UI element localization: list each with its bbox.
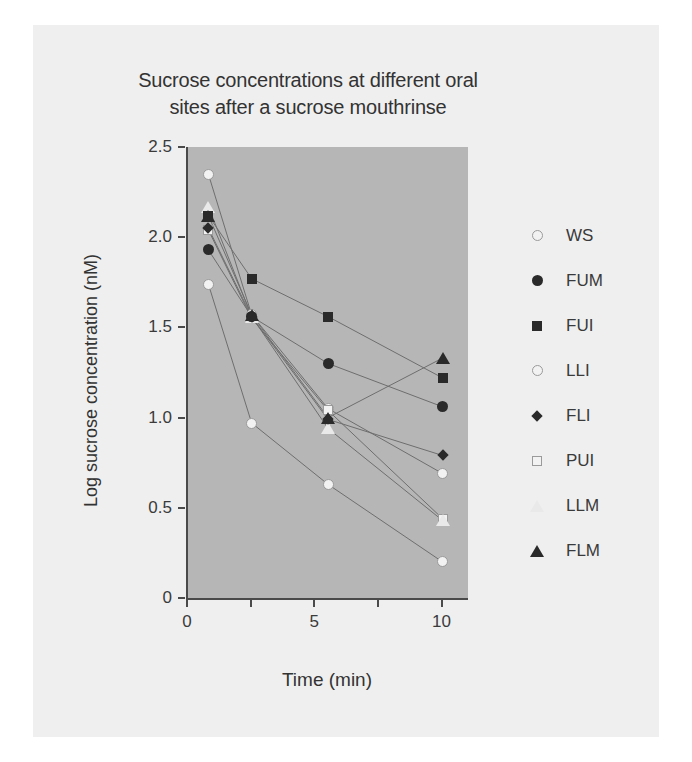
y-tick-label: 1.0 [132,408,172,428]
legend-marker-fui-icon [528,317,546,335]
data-point-lli-0 [203,279,214,290]
figure-panel: Sucrose concentrations at different oral… [33,25,659,737]
marker-circle-open [532,230,543,241]
data-point-fum-2 [323,358,334,369]
data-point-fui-3 [438,373,448,383]
series-line-fum [208,250,442,407]
y-tick-mark [178,236,185,238]
data-point-fui-1 [247,274,257,284]
data-point-lli-3 [437,556,448,567]
y-tick-mark [178,326,185,328]
data-point-lli-1 [246,418,257,429]
data-point-flm-2 [321,412,335,424]
data-point-ws-3 [437,468,448,479]
y-tick-mark [178,597,185,599]
legend-label-pui: PUI [566,451,594,471]
legend-marker-pui-icon [528,452,546,470]
y-axis-title: Log sucrose concentration (nM) [81,231,102,531]
legend-label-fli: FLI [566,406,591,426]
legend-marker-ws-icon [528,227,546,245]
data-point-flm-1 [245,309,259,321]
y-tick-mark [178,146,185,148]
legend-label-lli: LLI [566,361,590,381]
y-tick-label: 2.0 [132,227,172,247]
legend-item-pui[interactable]: PUI [528,438,648,483]
plot-wrapper: Log sucrose concentration (nM) Time (min… [33,25,659,737]
legend-item-llm[interactable]: LLM [528,483,648,528]
marker-diamond-filled [531,410,542,421]
data-point-fum-0 [203,244,214,255]
plot-area [186,147,468,600]
legend-item-fli[interactable]: FLI [528,393,648,438]
legend-item-ws[interactable]: WS [528,213,648,258]
legend-item-lli[interactable]: LLI [528,348,648,393]
series-line-fui [208,216,442,378]
legend-marker-lli-icon [528,362,546,380]
legend-marker-llm-icon [528,497,546,515]
legend-marker-fli-icon [528,407,546,425]
marker-circle-filled [532,275,543,286]
x-tick-label: 0 [167,612,207,632]
data-point-fui-2 [323,312,333,322]
x-axis-title: Time (min) [186,669,468,691]
marker-triangle-filled [530,545,544,557]
legend-item-fum[interactable]: FUM [528,258,648,303]
x-tick-mark [441,600,443,607]
series-line-pui [208,230,442,519]
legend-label-llm: LLM [566,496,599,516]
data-point-flm-3 [436,352,450,364]
x-tick-mark [377,600,379,607]
marker-circle-open [532,365,543,376]
y-tick-mark [178,507,185,509]
x-tick-mark [313,600,315,607]
y-tick-label: 1.5 [132,317,172,337]
data-point-ws-0 [203,169,214,180]
data-point-fli-3 [437,450,448,461]
x-tick-label: 10 [422,612,462,632]
y-tick-mark [178,417,185,419]
data-point-llm-3 [436,514,450,526]
x-tick-mark [186,600,188,607]
data-point-fum-3 [437,401,448,412]
y-tick-label: 0.5 [132,498,172,518]
chart-legend: WSFUMFUILLIFLIPUILLMFLM [528,213,648,573]
legend-label-ws: WS [566,226,593,246]
legend-label-fui: FUI [566,316,593,336]
legend-item-fui[interactable]: FUI [528,303,648,348]
data-point-lli-2 [323,479,334,490]
marker-square-filled [532,321,542,331]
legend-label-fum: FUM [566,271,603,291]
legend-marker-flm-icon [528,542,546,560]
legend-label-flm: FLM [566,541,600,561]
series-lines [188,147,468,598]
y-tick-label: 2.5 [132,137,172,157]
x-tick-mark [250,600,252,607]
legend-marker-fum-icon [528,272,546,290]
x-tick-label: 5 [294,612,334,632]
data-point-flm-0 [201,210,215,222]
legend-item-flm[interactable]: FLM [528,528,648,573]
y-tick-label: 0 [132,588,172,608]
marker-triangle-open [530,500,544,512]
marker-square-open [532,456,542,466]
